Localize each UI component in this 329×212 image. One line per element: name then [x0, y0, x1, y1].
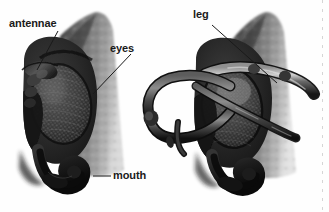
left-specimen-group — [14, 12, 124, 191]
right-specimen-group — [144, 12, 315, 194]
label-mouth: mouth — [113, 169, 146, 181]
scan-artifact-line — [322, 0, 323, 212]
label-leg: leg — [193, 8, 209, 20]
label-eyes: eyes — [110, 42, 134, 54]
label-antennae: antennae — [9, 17, 57, 29]
specimen-photograph — [0, 0, 329, 212]
figure-container: antennae eyes mouth leg — [0, 0, 329, 212]
